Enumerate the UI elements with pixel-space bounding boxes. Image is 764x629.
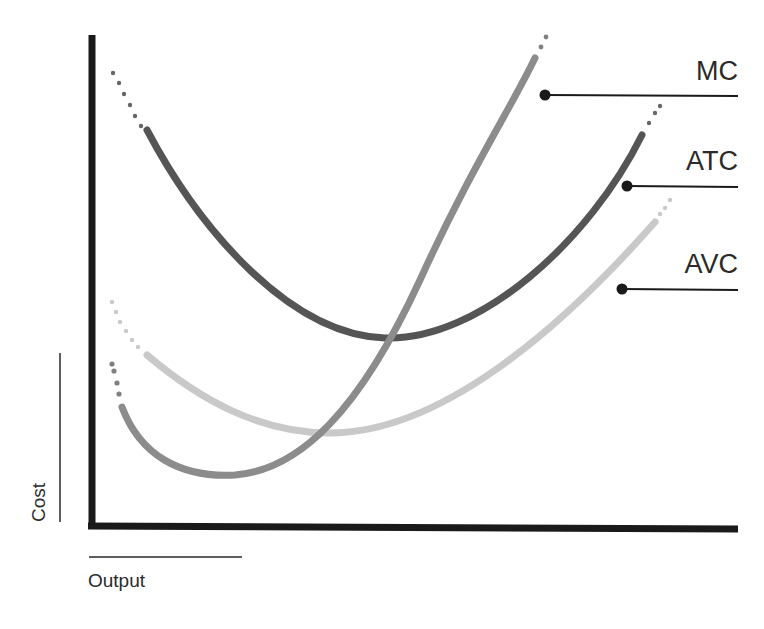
mc-annotation: MC (540, 56, 739, 101)
mc-leader-dot (540, 90, 551, 101)
avc-label: AVC (684, 249, 738, 279)
atc-label: ATC (686, 146, 738, 176)
atc-dots (111, 71, 662, 128)
mc-line (122, 58, 535, 475)
avc-leader-line (622, 289, 738, 290)
y-axis-label: Cost (28, 482, 49, 522)
atc-annotation: ATC (622, 146, 739, 192)
mc-label: MC (696, 56, 738, 86)
axes (88, 35, 738, 529)
atc-leader-line (627, 186, 738, 187)
mc-leader-line (545, 95, 738, 96)
avc-curve (110, 198, 672, 433)
mc-curve (109, 35, 548, 476)
y-axis-label-group: Cost (28, 353, 60, 522)
x-axis-label-group: Output (88, 557, 242, 591)
mc-dots (109, 35, 548, 397)
avc-leader-dot (617, 284, 628, 295)
avc-annotation: AVC (617, 249, 739, 295)
x-axis (88, 526, 738, 529)
avc-line (147, 222, 655, 433)
atc-leader-dot (622, 181, 633, 192)
x-axis-label: Output (88, 570, 146, 591)
cost-curves-chart: Cost Output (0, 0, 764, 629)
